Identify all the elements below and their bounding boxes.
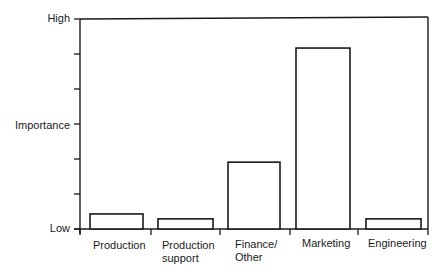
x-label-production: Production [93, 239, 146, 252]
y-label-importance: Importance [0, 119, 70, 131]
x-axis-ticks [80, 229, 428, 235]
bar-finance-other [228, 162, 280, 229]
bars [90, 48, 421, 229]
bar-marketing [296, 48, 350, 229]
y-label-high: High [0, 12, 70, 24]
bar-production-support [158, 219, 213, 229]
x-label-finance-other: Finance/ Other [235, 238, 277, 264]
importance-bar-chart: High Importance Low Production Productio… [0, 0, 446, 276]
bar-engineering [366, 219, 421, 229]
y-axis-ticks [74, 19, 80, 229]
plot-area [0, 0, 446, 276]
top-border [80, 17, 428, 19]
x-label-production-support: Production support [162, 239, 215, 265]
x-label-engineering: Engineering [368, 237, 427, 250]
bar-production [90, 214, 143, 229]
y-label-low: Low [0, 222, 70, 234]
x-label-marketing: Marketing [302, 237, 350, 250]
